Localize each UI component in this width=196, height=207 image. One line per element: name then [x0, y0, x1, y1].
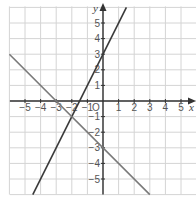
x-tick-label: −5	[19, 102, 31, 113]
y-tick-label: 3	[94, 49, 100, 60]
y-tick-label: 1	[94, 80, 100, 91]
axes: xyO	[10, 2, 196, 195]
plotted-line-2	[9, 54, 149, 194]
coordinate-graph: xyO −5−4−3−2−112345−5−4−3−2−112345	[0, 0, 196, 207]
y-tick-label: 4	[94, 33, 100, 44]
y-tick-label: −4	[89, 158, 101, 169]
x-tick-label: −4	[35, 102, 47, 113]
y-tick-label: −5	[89, 174, 101, 185]
x-tick-label: 5	[178, 102, 184, 113]
x-tick-label: 2	[131, 102, 137, 113]
x-tick-label: 4	[163, 102, 169, 113]
y-tick-label: −1	[89, 111, 101, 122]
x-tick-label: 3	[147, 102, 153, 113]
y-axis-label: y	[92, 2, 98, 14]
y-tick-label: 5	[94, 18, 100, 29]
x-tick-label: 1	[116, 102, 122, 113]
x-tick-label: −3	[50, 102, 62, 113]
x-axis-label: x	[188, 101, 194, 113]
